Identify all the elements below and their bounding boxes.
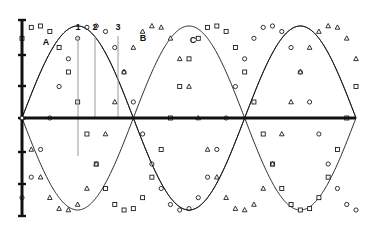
- marker-square: [187, 57, 191, 61]
- marker-square: [289, 202, 293, 206]
- marker-triangle: [29, 147, 34, 151]
- marker-square: [122, 208, 126, 212]
- marker-circle: [289, 45, 293, 49]
- marker-triangle: [150, 24, 155, 28]
- marker-square: [308, 207, 312, 211]
- marker-square: [104, 186, 108, 190]
- marker-square: [159, 147, 163, 151]
- marker-square: [141, 196, 145, 200]
- marker-circle: [335, 186, 339, 190]
- marker-circle: [103, 29, 107, 33]
- axes: [18, 20, 356, 216]
- vertical-guides: [78, 36, 118, 156]
- marker-triangle: [177, 56, 182, 60]
- marker-triangle: [224, 195, 229, 199]
- marker-circle: [243, 57, 247, 61]
- marker-square: [113, 202, 117, 206]
- marker-circle: [233, 84, 237, 88]
- marker-triangle: [103, 132, 108, 136]
- marker-square: [280, 186, 284, 190]
- marker-square: [57, 46, 61, 50]
- marker-circle: [215, 147, 219, 151]
- marker-square: [317, 196, 321, 200]
- marker-square: [354, 85, 358, 89]
- marker-triangle: [252, 202, 257, 206]
- numbered-label-1: 1: [75, 22, 80, 32]
- marker-triangle: [57, 206, 62, 210]
- marker-circle: [196, 196, 200, 200]
- waveform-plot-svg: ABC123: [0, 0, 378, 234]
- marker-triangle: [326, 24, 331, 28]
- marker-square: [66, 70, 70, 74]
- marker-triangle: [85, 186, 90, 190]
- marker-square: [85, 132, 89, 136]
- numbered-label-3: 3: [115, 22, 120, 32]
- marker-triangle: [307, 45, 312, 49]
- marker-circle: [205, 175, 209, 179]
- marker-circle: [270, 24, 274, 28]
- marker-square: [206, 25, 210, 29]
- marker-circle: [57, 84, 61, 88]
- marker-square: [178, 85, 182, 89]
- marker-circle: [66, 57, 70, 61]
- marker-triangle: [354, 56, 359, 60]
- marker-circle: [317, 132, 321, 136]
- marker-circle: [308, 100, 312, 104]
- marker-square: [224, 30, 228, 34]
- marker-square: [298, 208, 302, 212]
- origin-marker: [20, 116, 24, 120]
- marker-square: [261, 132, 265, 136]
- marker-circle: [38, 147, 42, 151]
- marker-triangle: [112, 99, 117, 103]
- marker-triangle: [335, 25, 340, 29]
- marker-square: [335, 147, 339, 151]
- chart-figure: ABC123: [0, 0, 378, 234]
- marker-circle: [141, 132, 145, 136]
- marker-circle: [345, 202, 349, 206]
- phase-label-B: B: [140, 33, 147, 43]
- marker-triangle: [344, 36, 349, 40]
- marker-triangle: [48, 195, 53, 199]
- marker-square: [215, 24, 219, 28]
- marker-square: [131, 207, 135, 211]
- marker-square: [196, 36, 200, 40]
- marker-square: [39, 24, 43, 28]
- marker-square: [233, 46, 237, 50]
- phase-label-A: A: [43, 37, 50, 47]
- marker-circle: [252, 36, 256, 40]
- marker-circle: [178, 208, 182, 212]
- marker-circle: [159, 186, 163, 190]
- marker-circle: [280, 29, 284, 33]
- marker-square: [29, 25, 33, 29]
- marker-square: [243, 70, 247, 74]
- marker-square: [48, 30, 52, 34]
- marker-triangle: [289, 99, 294, 103]
- marker-square: [326, 175, 330, 179]
- marker-square: [150, 175, 154, 179]
- marker-triangle: [242, 208, 247, 212]
- marker-triangle: [261, 186, 266, 190]
- marker-circle: [168, 202, 172, 206]
- numbered-label-2: 2: [92, 22, 97, 32]
- marker-triangle: [159, 25, 164, 29]
- phase-label-C: C: [190, 35, 197, 45]
- marker-triangle: [187, 84, 192, 88]
- marker-triangle: [205, 147, 210, 151]
- marker-circle: [354, 208, 358, 212]
- marker-square: [252, 100, 256, 104]
- marker-triangle: [38, 175, 43, 179]
- marker-triangle: [317, 29, 322, 33]
- marker-triangle: [233, 206, 238, 210]
- marker-triangle: [279, 132, 284, 136]
- marker-circle: [261, 25, 265, 29]
- marker-circle: [29, 175, 33, 179]
- marker-triangle: [215, 175, 220, 179]
- marker-circle: [113, 45, 117, 49]
- marker-circle: [131, 100, 135, 104]
- marker-triangle: [75, 202, 80, 206]
- marker-triangle: [131, 45, 136, 49]
- marker-circle: [326, 162, 330, 166]
